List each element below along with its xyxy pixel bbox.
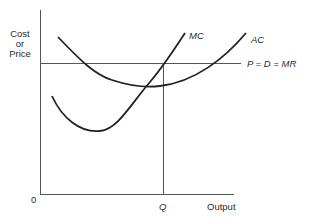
q-label: Q: [159, 202, 166, 212]
price-line-label: P = D = MR: [247, 59, 296, 69]
origin-label: 0: [31, 195, 36, 205]
mc-label: MC: [189, 31, 204, 41]
chart-canvas: [0, 0, 309, 219]
y-axis-label-price: Price: [3, 49, 37, 59]
ac-label: AC: [251, 35, 264, 45]
x-axis-label: Output: [207, 202, 236, 212]
